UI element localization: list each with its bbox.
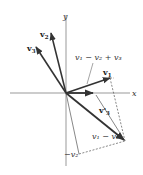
label-v3-prime: v'3 — [98, 105, 110, 116]
label-v3: v3 — [26, 43, 36, 54]
label-diff-expr: v₁ − v₂ — [92, 132, 119, 141]
label-sum-expr: v₁ − v₂ + v₃ — [75, 53, 122, 62]
label-neg-v2: −v₂ — [64, 150, 78, 159]
vector-v2 — [51, 33, 66, 93]
vector-v3 — [36, 47, 66, 93]
label-v1: v1 — [102, 67, 112, 78]
dashed-line-negv2-to-diff — [79, 141, 125, 154]
label-v2: v2 — [39, 29, 49, 40]
x-axis-label: x — [132, 89, 137, 98]
sum-label-leader — [87, 63, 93, 84]
y-axis-label: y — [62, 12, 68, 21]
vector-diagram: x y v2 v3 v1 v₁ − v₂ + v₃ v'3 v₁ − v₂ −v… — [0, 0, 143, 175]
